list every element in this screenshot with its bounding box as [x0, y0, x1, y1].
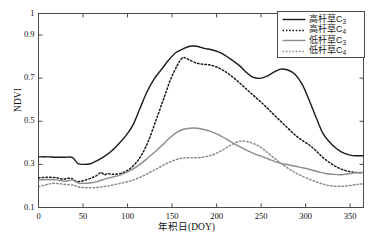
legend-line-sample-icon: [281, 14, 307, 24]
y-tick-label: 0.5: [9, 115, 35, 125]
x-tick-label: 350: [335, 211, 365, 221]
legend-item-4[interactable]: 低杆草C4: [281, 46, 361, 57]
legend-item-2[interactable]: 高杆草C4: [281, 25, 361, 36]
legend-item-3[interactable]: 低杆草C3: [281, 35, 361, 46]
x-tick-label: 200: [202, 211, 232, 221]
y-tick-label: 0.9: [9, 29, 35, 39]
x-tick-label: 150: [157, 211, 187, 221]
legend-line-sample-icon: [281, 35, 307, 45]
chart-legend: 高杆草C3高杆草C4低杆草C3低杆草C4: [277, 11, 365, 58]
x-tick-label: 300: [291, 211, 321, 221]
x-tick-label: 100: [113, 211, 143, 221]
x-axis-label: 年积日(DOY): [0, 219, 373, 233]
legend-item-label: 低杆草C4: [307, 45, 346, 57]
y-tick-label: 0.3: [9, 158, 35, 168]
legend-line-sample-icon: [281, 25, 307, 35]
y-tick-label: 0.7: [9, 72, 35, 82]
x-tick-label: 50: [68, 211, 98, 221]
x-tick-label: 0: [24, 211, 54, 221]
y-tick-label: 1: [9, 8, 35, 18]
legend-line-sample-icon: [281, 46, 307, 56]
x-tick-label: 250: [246, 211, 276, 221]
legend-item-1[interactable]: 高杆草C3: [281, 14, 361, 25]
ndvi-line-chart-figure: NDVI 年积日(DOY) 0.10.30.50.70.91 050100150…: [0, 0, 373, 244]
